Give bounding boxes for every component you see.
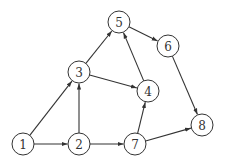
node-label: 3 (75, 66, 83, 80)
node-label: 5 (115, 16, 123, 30)
node-2: 2 (68, 133, 90, 155)
node-8: 8 (191, 114, 213, 136)
node-label: 1 (19, 138, 27, 152)
node-label: 8 (198, 119, 206, 133)
node-1: 1 (12, 133, 34, 155)
edge-7-to-4 (138, 102, 146, 133)
nodes-layer: 12345678 (12, 11, 213, 155)
node-label: 7 (131, 138, 139, 152)
edge-3-to-4 (90, 75, 137, 88)
edge-5-to-6 (129, 27, 158, 41)
node-7: 7 (124, 133, 146, 155)
edge-1-to-3 (30, 81, 72, 135)
edge-7-to-8 (146, 128, 191, 141)
node-5: 5 (108, 11, 130, 33)
node-3: 3 (68, 61, 90, 83)
node-label: 6 (164, 40, 172, 54)
node-label: 2 (75, 138, 83, 152)
edge-4-to-5 (123, 33, 143, 81)
edge-3-to-5 (86, 31, 112, 63)
node-6: 6 (157, 35, 179, 57)
directed-graph: 12345678 (0, 0, 230, 163)
node-4: 4 (137, 80, 159, 102)
edge-6-to-8 (172, 56, 197, 114)
node-label: 4 (144, 85, 152, 99)
